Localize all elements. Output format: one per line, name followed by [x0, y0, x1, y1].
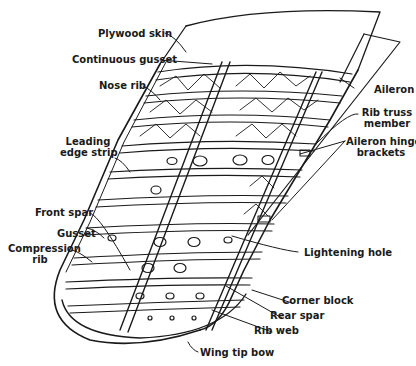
label-compression-rib: Compression rib	[8, 243, 72, 265]
label-leading-edge-strip-line2: edge strip	[60, 147, 116, 158]
label-wing-tip-bow: Wing tip bow	[200, 347, 274, 358]
wing-structure-diagram: Plywood skin Continuous gusset Nose rib …	[0, 0, 416, 366]
label-aileron-hinge-brackets-line1: Aileron hinge	[346, 136, 416, 147]
label-plywood-skin: Plywood skin	[98, 28, 172, 39]
label-rib-truss-member: Rib truss member	[360, 107, 414, 129]
label-rib-truss-member-line1: Rib truss	[360, 107, 414, 118]
label-aileron: Aileron	[374, 84, 414, 95]
label-aileron-hinge-brackets-line2: brackets	[346, 147, 416, 158]
label-compression-rib-line1: Compression	[8, 243, 72, 254]
label-rib-truss-member-line2: member	[360, 118, 414, 129]
label-lightening-hole: Lightening hole	[304, 247, 392, 258]
label-leading-edge-strip: Leading edge strip	[60, 136, 116, 158]
label-gusset: Gusset	[57, 228, 96, 239]
label-corner-block: Corner block	[282, 295, 354, 306]
trailing-edge-outline	[200, 70, 358, 330]
label-rear-spar: Rear spar	[270, 310, 324, 321]
label-aileron-hinge-brackets: Aileron hinge brackets	[346, 136, 416, 158]
aileron-outline	[248, 34, 400, 235]
label-rib-web: Rib web	[254, 325, 299, 336]
label-compression-rib-line2: rib	[8, 254, 72, 265]
label-continuous-gusset: Continuous gusset	[72, 54, 177, 65]
rear-spar	[206, 72, 322, 330]
label-front-spar: Front spar	[35, 207, 93, 218]
wing-drawing	[0, 0, 416, 366]
label-nose-rib: Nose rib	[99, 80, 146, 91]
label-leading-edge-strip-line1: Leading	[60, 136, 116, 147]
